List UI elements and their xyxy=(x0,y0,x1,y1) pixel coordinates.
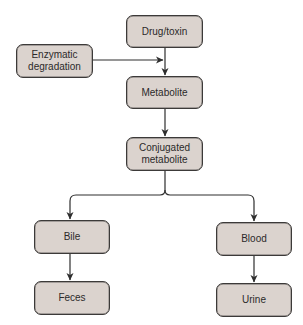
node-label: Urine xyxy=(242,294,266,306)
node-label: Bile xyxy=(64,231,81,243)
flowchart-canvas: Drug/toxin Enzymatic degradation Metabol… xyxy=(0,0,303,325)
edge-conjugated-to-blood xyxy=(165,190,254,221)
node-feces: Feces xyxy=(34,281,110,315)
node-drug-toxin: Drug/toxin xyxy=(126,15,203,48)
node-label: Metabolite xyxy=(141,87,187,99)
node-conjugated-metabolite: Conjugated metabolite xyxy=(126,137,203,171)
edge-conjugated-to-bile xyxy=(70,170,165,219)
node-label: Feces xyxy=(58,292,85,304)
node-urine: Urine xyxy=(216,283,292,317)
node-label: Drug/toxin xyxy=(142,26,188,38)
node-label: Conjugated metabolite xyxy=(139,142,190,166)
node-metabolite: Metabolite xyxy=(126,76,203,109)
node-label: Enzymatic degradation xyxy=(28,49,81,73)
node-enzymatic-degradation: Enzymatic degradation xyxy=(16,44,93,78)
node-bile: Bile xyxy=(34,220,110,254)
node-blood: Blood xyxy=(216,222,292,256)
node-label: Blood xyxy=(241,233,267,245)
